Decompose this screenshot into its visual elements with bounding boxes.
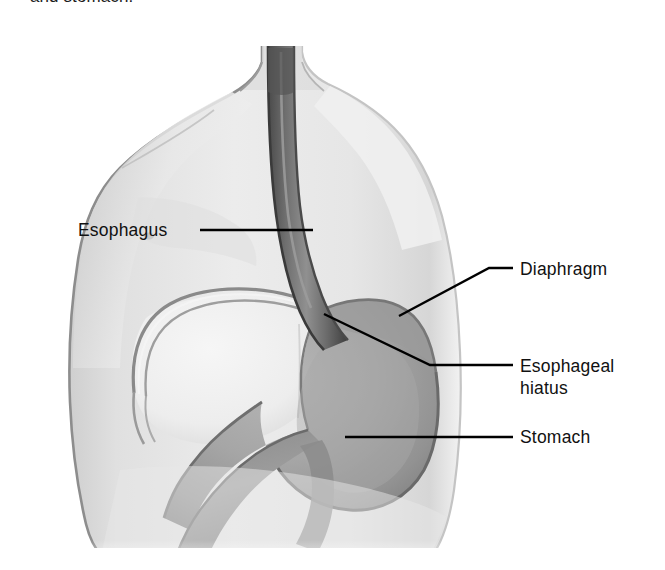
bottom-mask	[0, 548, 665, 570]
label-esophageal-hiatus-line2: hiatus	[520, 378, 568, 398]
label-esophagus: Esophagus	[78, 220, 167, 240]
esophagus-upper-collar	[268, 48, 294, 95]
label-diaphragm: Diaphragm	[520, 259, 607, 279]
label-esophageal-hiatus-line1: Esophageal	[520, 356, 614, 376]
label-stomach: Stomach	[520, 427, 590, 447]
anatomy-illustration: Esophagus Diaphragm Esophageal hiatus St…	[0, 0, 665, 570]
figure-root: and stomach.	[0, 0, 665, 570]
